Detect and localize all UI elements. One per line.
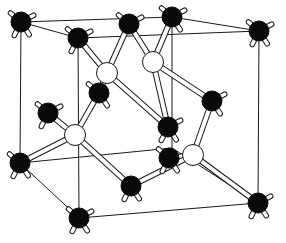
black-atom bbox=[89, 83, 109, 103]
black-atom bbox=[121, 176, 141, 196]
black-atom bbox=[38, 103, 58, 123]
black-atom bbox=[158, 117, 178, 137]
black-atom bbox=[69, 208, 89, 228]
black-atom bbox=[202, 91, 222, 111]
black-atom bbox=[119, 14, 139, 34]
cube-edge bbox=[21, 17, 172, 22]
black-atom bbox=[11, 12, 31, 32]
black-atom bbox=[248, 193, 268, 213]
white-atom bbox=[143, 52, 164, 73]
black-atom bbox=[68, 28, 88, 48]
white-atom bbox=[97, 63, 118, 84]
crystal-structure-canvas bbox=[0, 0, 286, 243]
cube-edge bbox=[20, 22, 21, 163]
black-atom bbox=[162, 7, 182, 27]
diamond-lattice-diagram bbox=[0, 0, 286, 243]
black-atom bbox=[10, 153, 30, 173]
cube-edge bbox=[258, 31, 259, 203]
black-atom bbox=[249, 21, 269, 41]
white-atom bbox=[65, 125, 86, 146]
cube-edge bbox=[172, 17, 259, 31]
black-atom bbox=[159, 148, 179, 168]
cube-edge bbox=[79, 203, 258, 218]
white-atom bbox=[183, 145, 204, 166]
